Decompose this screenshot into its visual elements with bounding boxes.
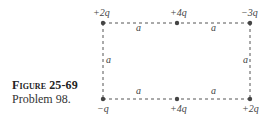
- charge-dot-bottom-left: [101, 97, 105, 101]
- segment-label-right-side: a: [243, 54, 248, 65]
- segment-label-top-right: a: [211, 22, 216, 33]
- charge-dot-top-middle: [175, 21, 179, 25]
- figure-subtitle: Problem 98.: [12, 92, 78, 106]
- charge-dot-bottom-right: [248, 97, 252, 101]
- charge-label-bottom-right: +2q: [242, 103, 259, 114]
- figure-title: Figure 25-69: [12, 78, 78, 92]
- charge-label-top-middle: +4q: [170, 7, 187, 18]
- charge-label-bottom-middle: +4q: [170, 103, 187, 114]
- charge-label-top-right: −3q: [241, 7, 258, 18]
- charge-dot-bottom-middle: [175, 97, 179, 101]
- charge-label-bottom-left: −q: [97, 103, 109, 114]
- segment-label-bottom-right: a: [211, 85, 216, 96]
- charge-dot-top-left: [101, 21, 105, 25]
- charge-dot-top-right: [248, 21, 252, 25]
- segment-label-left-side: a: [106, 54, 111, 65]
- charge-label-top-left: +2q: [93, 7, 110, 18]
- figure-caption: Figure 25-69 Problem 98.: [12, 78, 78, 106]
- segment-label-top-left: a: [136, 22, 141, 33]
- segment-label-bottom-left: a: [136, 85, 141, 96]
